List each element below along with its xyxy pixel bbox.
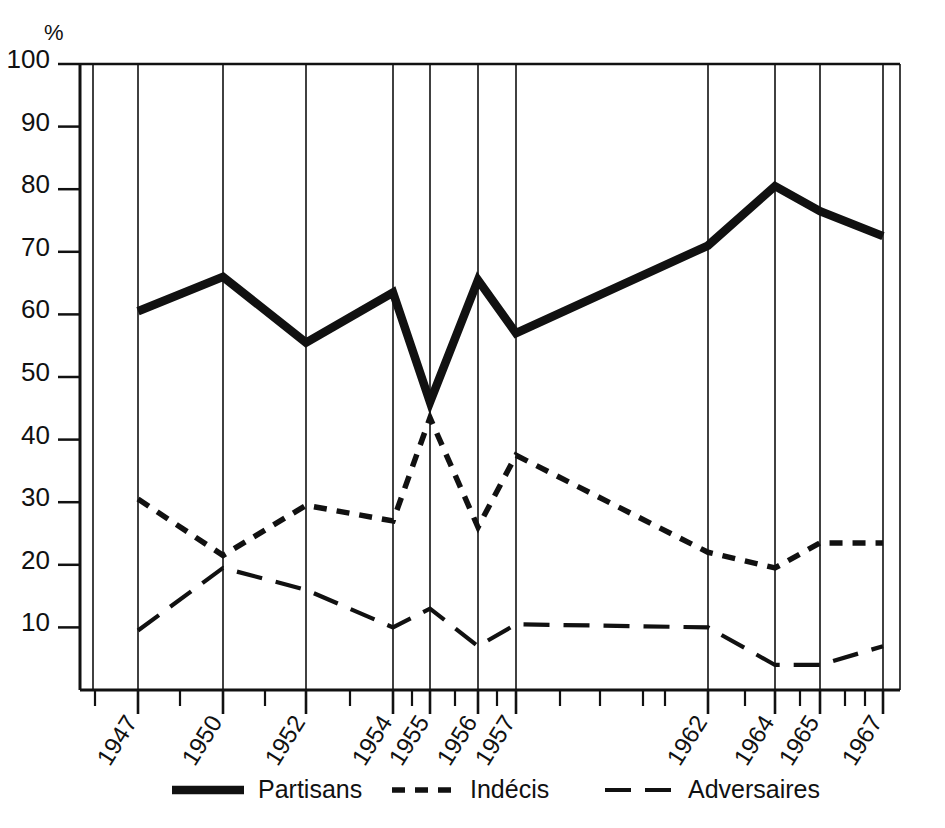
- y-axis: 100908070605040302010 %: [7, 20, 80, 690]
- x-tick-label: 1954: [346, 710, 397, 770]
- legend-label-adversaires: Adversaires: [688, 775, 820, 803]
- x-axis-tick-labels: 1947195019521954195519561957196219641965…: [91, 710, 887, 770]
- data-series-layer: [138, 186, 883, 665]
- x-tick-label: 1967: [836, 710, 887, 770]
- x-tick-label: 1947: [91, 710, 142, 770]
- series-line-partisans: [138, 186, 883, 402]
- y-tick-label: 90: [21, 107, 50, 137]
- line-chart: 100908070605040302010 % 1947195019521954…: [0, 0, 945, 828]
- x-tick-label: 1964: [728, 710, 779, 770]
- vertical-gridlines: [93, 64, 900, 690]
- legend-label-partisans: Partisans: [258, 775, 362, 803]
- x-tick-label: 1962: [661, 710, 712, 770]
- x-tick-label: 1957: [469, 710, 520, 770]
- x-axis: 1947195019521954195519561957196219641965…: [80, 690, 900, 770]
- x-tick-label: 1965: [773, 710, 824, 770]
- chart-legend: PartisansIndécisAdversaires: [172, 775, 820, 803]
- x-tick-label: 1956: [431, 710, 482, 770]
- x-axis-ticks: [95, 690, 883, 714]
- y-tick-label: 40: [21, 420, 50, 450]
- y-tick-label: 70: [21, 232, 50, 262]
- y-tick-label: 10: [21, 607, 50, 637]
- x-tick-label: 1955: [383, 710, 434, 770]
- y-axis-tick-labels: 100908070605040302010: [7, 44, 50, 637]
- y-tick-label: 30: [21, 482, 50, 512]
- series-line-indcis: [138, 418, 883, 568]
- x-tick-label: 1952: [259, 710, 310, 770]
- chart-container: 100908070605040302010 % 1947195019521954…: [0, 0, 945, 828]
- y-tick-label: 80: [21, 169, 50, 199]
- legend-label-indcis: Indécis: [470, 775, 549, 803]
- x-tick-label: 1950: [176, 710, 227, 770]
- y-tick-label: 20: [21, 545, 50, 575]
- series-line-adversaires: [138, 568, 883, 665]
- y-tick-label: 60: [21, 294, 50, 324]
- y-axis-unit-label: %: [44, 20, 64, 45]
- y-tick-label: 50: [21, 357, 50, 387]
- y-tick-label: 100: [7, 44, 50, 74]
- y-axis-ticks: [58, 64, 80, 627]
